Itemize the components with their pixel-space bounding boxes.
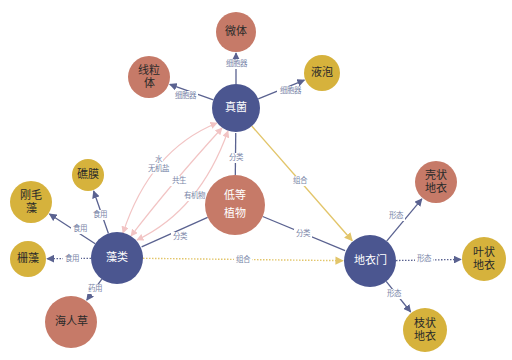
node-label: 植物 [224, 206, 246, 220]
node-zaolei[interactable]: 藻类 [91, 232, 143, 284]
edge-label: 食用 [73, 223, 87, 233]
node-label: 藻 [26, 202, 37, 215]
node-diyimen[interactable]: 地衣门 [344, 235, 396, 287]
edge-label: 细胞器 [175, 90, 197, 100]
edge-label: 组合 [293, 175, 308, 185]
node-jiaomo[interactable]: 礁膜 [72, 159, 104, 191]
edge-label: 分类 [296, 228, 311, 238]
node-label: 栅藻 [17, 251, 39, 265]
node-label: 线粒 [138, 63, 160, 77]
edge-label: 分类 [229, 152, 244, 162]
nodes: 真菌微体线粒体液泡低等植物藻类礁膜刚毛藻栅藻海人草地衣门壳状地衣叶状地衣枝状地衣 [10, 12, 506, 352]
edge-label: 药用 [88, 283, 102, 293]
node-label: 刚毛 [20, 189, 42, 202]
node-label: 地衣门 [354, 253, 387, 267]
node-label: 枝状 [414, 316, 436, 330]
curved-edge-label: 水 [155, 154, 163, 164]
node-label: 地衣 [473, 258, 495, 272]
node-label: 体 [144, 76, 155, 90]
edge-label: 细胞器 [280, 85, 302, 95]
edge-label: 形态 [389, 210, 404, 220]
node-label: 海人草 [55, 314, 88, 328]
node-zhenjun[interactable]: 真菌 [212, 84, 260, 132]
node-weiti[interactable]: 微体 [216, 12, 256, 52]
node-label: 微体 [225, 24, 247, 38]
node-label: 藻类 [106, 250, 128, 264]
curved-edge-label: 共生 [172, 175, 187, 185]
node-kezhuang[interactable]: 壳状地衣 [415, 161, 457, 203]
node-hairencao[interactable]: 海人草 [45, 296, 97, 348]
concept-map: 水无机盐共生有机物细胞器细胞器细胞器分类分类分类组合组合食用食用食用药用形态形态… [0, 0, 512, 360]
node-label: 地衣 [425, 181, 447, 195]
edge-label: 形态 [387, 288, 402, 298]
edge-label: 食用 [93, 209, 107, 219]
node-yepao[interactable]: 液泡 [304, 55, 340, 91]
node-circle [205, 175, 265, 235]
node-didengzhiwu[interactable]: 低等植物 [205, 175, 265, 235]
edge-label: 细胞器 [226, 58, 248, 68]
node-label: 礁膜 [77, 167, 99, 181]
edge-label: 食用 [65, 253, 79, 263]
node-xianliti[interactable]: 线粒体 [128, 56, 170, 98]
node-yezhuang[interactable]: 叶状地衣 [462, 237, 506, 281]
node-label: 液泡 [311, 65, 333, 79]
node-label: 低等 [224, 188, 246, 202]
curved-edge-label: 有机物 [184, 190, 206, 200]
node-pengzao[interactable]: 栅藻 [10, 241, 46, 277]
node-gangmaozao[interactable]: 刚毛藻 [10, 181, 52, 223]
edge-label: 分类 [173, 231, 188, 241]
curved-edge-label: 无机盐 [148, 163, 170, 173]
edge-label: 形态 [417, 253, 432, 263]
node-zhizhuang[interactable]: 枝状地衣 [403, 308, 447, 352]
edge-label: 组合 [236, 254, 251, 264]
node-label: 地衣 [414, 329, 436, 343]
node-label: 真菌 [225, 100, 247, 114]
node-label: 壳状 [425, 168, 447, 182]
node-label: 叶状 [473, 245, 495, 259]
